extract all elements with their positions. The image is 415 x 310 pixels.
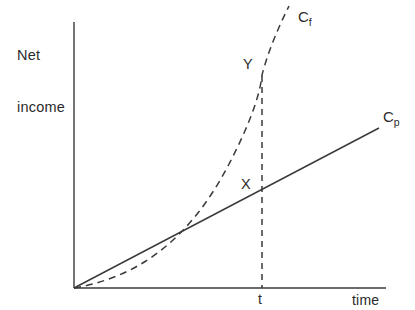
series-label-cp-base: C (383, 108, 394, 125)
series-label-cp: Cp (383, 108, 400, 128)
series-label-cf-subscript: f (309, 16, 312, 28)
series-label-cf: Cf (298, 8, 312, 28)
series-cf-curve (74, 6, 289, 288)
y-axis-label: Net income (17, 13, 65, 150)
x-tick-label-t: t (258, 291, 262, 308)
net-income-vs-time-chart: Net income time t Cf Cp Y X (0, 0, 415, 310)
y-axis-label-line-2: income (17, 99, 65, 116)
series-label-cf-base: C (298, 8, 309, 25)
series-cp-line (74, 128, 379, 288)
y-axis-label-line-1: Net (17, 47, 65, 64)
point-label-y: Y (243, 56, 253, 73)
series-label-cp-subscript: p (394, 116, 400, 128)
point-label-x: X (241, 176, 251, 193)
x-axis-label: time (352, 292, 379, 309)
